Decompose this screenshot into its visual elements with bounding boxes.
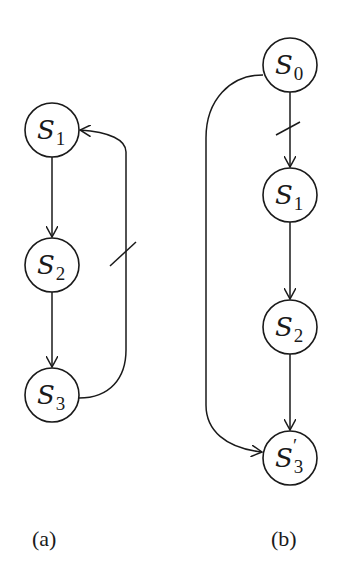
node-b-s2: S2	[263, 300, 317, 354]
edge-b-s0-s3p	[206, 75, 263, 452]
node-b-s3-prime: S3 ′	[263, 431, 317, 485]
node-b-s0: S0	[263, 38, 317, 92]
diagram-canvas: S1 S2 S3 (a) S0 S1 S2	[0, 0, 339, 572]
node-b-s1: S1	[263, 168, 317, 222]
blocked-tick-icon	[110, 242, 136, 266]
panel-b: S0 S1 S2 S3 ′ (b)	[206, 38, 317, 551]
panel-a: S1 S2 S3 (a)	[25, 103, 136, 551]
caption-a: (a)	[32, 526, 56, 551]
node-a-s2: S2	[25, 238, 79, 292]
prime-mark: ′	[293, 435, 297, 456]
node-a-s1: S1	[25, 103, 79, 157]
caption-b: (b)	[271, 526, 297, 551]
blocked-tick-icon	[276, 122, 300, 135]
edge-a-s3-s1	[79, 130, 126, 398]
node-a-s3: S3	[25, 368, 79, 422]
